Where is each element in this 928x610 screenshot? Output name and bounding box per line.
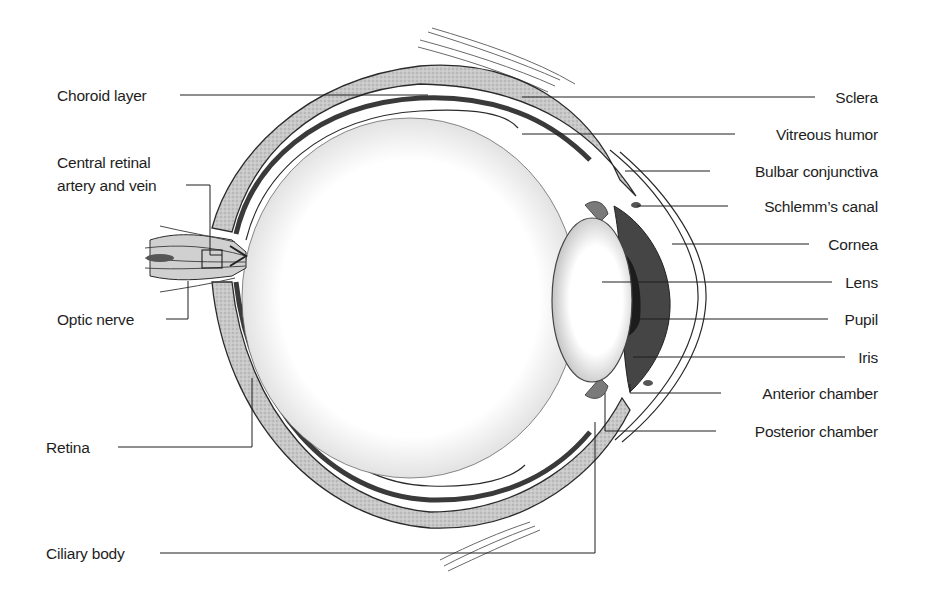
label-sclera: Sclera (835, 88, 878, 107)
label-pupil: Pupil (845, 310, 878, 329)
schlemms-canal-shape (631, 202, 641, 208)
label-choroid-layer: Choroid layer (57, 86, 147, 105)
label-iris: Iris (858, 348, 878, 367)
label-lens: Lens (845, 273, 878, 292)
label-bulbar-conjunctiva: Bulbar conjunctiva (755, 162, 878, 181)
label-retina: Retina (46, 438, 90, 457)
anterior-chamber-mark (643, 380, 653, 386)
label-central-retinal-artery-line2: artery and vein (57, 176, 157, 195)
vitreous-body (242, 118, 578, 478)
label-anterior-chamber: Anterior chamber (762, 384, 878, 403)
extraocular-muscle-bottom (440, 522, 540, 571)
label-vitreous-humor: Vitreous humor (776, 125, 878, 144)
label-posterior-chamber: Posterior chamber (755, 422, 878, 441)
lens-shape (552, 218, 632, 382)
label-central-retinal-artery-line1: Central retinal (57, 153, 151, 172)
label-cornea: Cornea (828, 235, 878, 254)
label-optic-nerve: Optic nerve (57, 310, 134, 329)
label-ciliary-body: Ciliary body (46, 544, 125, 563)
label-schlemms-canal: Schlemm’s canal (764, 197, 878, 216)
